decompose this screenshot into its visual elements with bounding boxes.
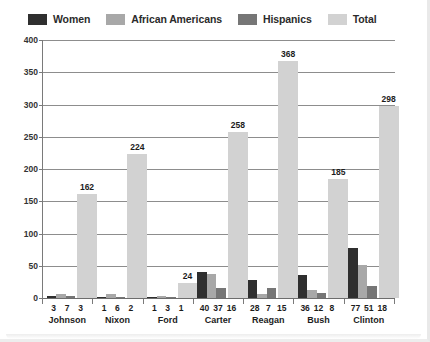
- bar-total-carter: [228, 132, 248, 298]
- bar-total-nixon: [127, 154, 147, 298]
- x-value-women: 3: [47, 303, 60, 313]
- legend-swatch-african-americans: [106, 14, 125, 25]
- x-value-african-americans: 51: [362, 303, 375, 313]
- x-value-african-americans: 3: [161, 303, 174, 313]
- x-axis-label-reagan: Reagan: [243, 315, 293, 325]
- y-tick-label-150: 150: [24, 196, 38, 206]
- y-tick-label-100: 100: [24, 229, 38, 239]
- legend-item-african-americans: African Americans: [106, 13, 222, 25]
- x-axis-group-carter: 403716Carter: [193, 299, 243, 325]
- x-axis-values-carter: 403716: [193, 303, 243, 313]
- legend-item-hispanics: Hispanics: [238, 13, 312, 25]
- x-value-hispanics: 3: [74, 303, 87, 313]
- x-value-hispanics: 16: [225, 303, 238, 313]
- bar-total-bush: [328, 179, 348, 298]
- bars-container: [345, 40, 395, 298]
- bar-total-johnson: [77, 194, 97, 298]
- total-value-label-bush: 185: [331, 167, 345, 177]
- x-value-african-americans: 6: [111, 303, 124, 313]
- bar-hispanics-carter: [216, 288, 226, 298]
- y-tick-label-300: 300: [24, 100, 38, 110]
- x-value-hispanics: 15: [275, 303, 288, 313]
- bar-total-reagan: [278, 61, 298, 298]
- x-axis-group-bush: 36128Bush: [293, 299, 343, 325]
- bar-group-bush: 185: [294, 40, 344, 298]
- bar-group-carter: 258: [194, 40, 244, 298]
- bar-women-nixon: [97, 297, 107, 298]
- legend-swatch-total: [328, 14, 347, 25]
- legend-item-women: Women: [28, 13, 90, 25]
- bar-hispanics-bush: [317, 293, 327, 298]
- legend-label-total: Total: [353, 13, 377, 25]
- bar-hispanics-reagan: [267, 288, 277, 298]
- bars-container: [43, 40, 93, 298]
- x-axis-separator-3: [193, 299, 194, 304]
- x-axis-separator-5: [293, 299, 294, 304]
- y-tick-label-250: 250: [24, 132, 38, 142]
- x-axis-values-reagan: 28715: [243, 303, 293, 313]
- legend-label-hispanics: Hispanics: [263, 13, 312, 25]
- x-value-hispanics: 1: [174, 303, 187, 313]
- y-tick-label-0: 0: [33, 293, 38, 303]
- legend-swatch-hispanics: [238, 14, 257, 25]
- bar-group-ford: 24: [144, 40, 194, 298]
- bar-women-johnson: [47, 296, 57, 298]
- x-axis-label-johnson: Johnson: [42, 315, 92, 325]
- chart-card: Women African Americans Hispanics Total …: [0, 0, 430, 342]
- x-value-african-americans: 37: [211, 303, 224, 313]
- bar-group-nixon: 224: [93, 40, 143, 298]
- x-value-african-americans: 7: [262, 303, 275, 313]
- x-axis-values-nixon: 162: [92, 303, 142, 313]
- bar-women-ford: [147, 297, 157, 298]
- total-value-label-ford: 24: [183, 271, 192, 281]
- total-value-label-clinton: 298: [382, 94, 396, 104]
- x-value-women: 40: [198, 303, 211, 313]
- x-value-women: 1: [97, 303, 110, 313]
- bar-hispanics-ford: [166, 297, 176, 298]
- x-value-hispanics: 18: [376, 303, 389, 313]
- total-value-label-nixon: 224: [130, 142, 144, 152]
- total-value-label-carter: 258: [231, 120, 245, 130]
- bar-hispanics-clinton: [367, 286, 377, 298]
- chart-legend: Women African Americans Hispanics Total: [0, 8, 430, 30]
- y-tick-label-200: 200: [24, 164, 38, 174]
- bar-african-americans-reagan: [257, 294, 267, 299]
- bar-african-americans-johnson: [56, 294, 66, 299]
- bar-women-clinton: [348, 248, 358, 298]
- bars-container: [144, 40, 194, 298]
- bars-container: [194, 40, 244, 298]
- bar-women-bush: [298, 275, 308, 298]
- x-axis-label-carter: Carter: [193, 315, 243, 325]
- x-value-women: 28: [248, 303, 261, 313]
- bar-total-ford: [178, 283, 198, 298]
- x-value-women: 77: [349, 303, 362, 313]
- bar-group-clinton: 298: [345, 40, 395, 298]
- bar-women-reagan: [248, 280, 258, 298]
- x-axis-label-nixon: Nixon: [92, 315, 142, 325]
- x-value-african-americans: 12: [312, 303, 325, 313]
- x-value-hispanics: 2: [124, 303, 137, 313]
- x-axis-group-ford: 131Ford: [143, 299, 193, 325]
- bar-african-americans-nixon: [106, 294, 116, 298]
- x-axis-group-clinton: 775118Clinton: [344, 299, 394, 325]
- legend-label-african-americans: African Americans: [131, 13, 222, 25]
- x-axis-label-bush: Bush: [293, 315, 343, 325]
- x-axis-separator-4: [243, 299, 244, 304]
- x-axis-label-clinton: Clinton: [344, 315, 394, 325]
- bar-hispanics-johnson: [66, 296, 76, 298]
- y-tick-label-350: 350: [24, 67, 38, 77]
- bar-african-americans-ford: [157, 296, 167, 298]
- total-value-label-reagan: 368: [281, 49, 295, 59]
- plot-area: 0501001502002503003504001622242425836818…: [42, 40, 395, 299]
- bars-container: [244, 40, 294, 298]
- bar-group-reagan: 368: [244, 40, 294, 298]
- total-value-label-johnson: 162: [80, 182, 94, 192]
- x-axis-values-ford: 131: [143, 303, 193, 313]
- bar-total-clinton: [379, 106, 399, 298]
- y-tick-label-400: 400: [24, 35, 38, 45]
- bar-african-americans-clinton: [358, 265, 368, 298]
- x-axis-group-reagan: 28715Reagan: [243, 299, 293, 325]
- x-axis: 373Johnson162Nixon131Ford403716Carter287…: [42, 299, 394, 339]
- x-axis-values-johnson: 373: [42, 303, 92, 313]
- bar-hispanics-nixon: [116, 297, 126, 298]
